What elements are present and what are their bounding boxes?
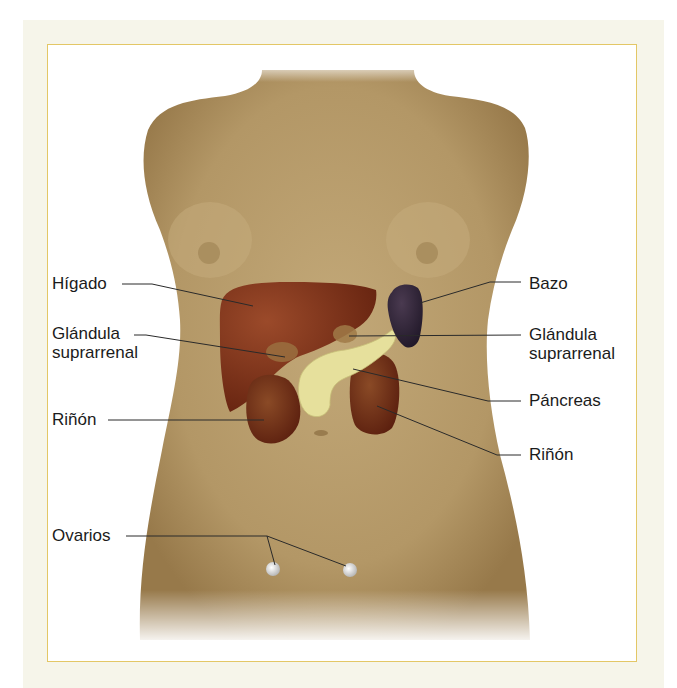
navel xyxy=(314,430,328,436)
label-glandula-suprarrenal-right: Glándula suprarrenal xyxy=(529,325,615,363)
ovary-left xyxy=(266,562,280,576)
adrenal-gland-right xyxy=(333,325,357,343)
label-rinon-left: Riñón xyxy=(52,410,96,429)
label-pancreas: Páncreas xyxy=(529,391,601,410)
label-ovarios: Ovarios xyxy=(52,526,111,545)
label-rinon-right: Riñón xyxy=(529,445,573,464)
label-glandula-suprarrenal-left: Glándula suprarrenal xyxy=(52,324,138,362)
adrenal-gland-left xyxy=(266,342,298,362)
breast-left xyxy=(168,202,252,278)
label-higado: Hígado xyxy=(52,274,107,293)
breast-right xyxy=(386,202,470,278)
ovary-right xyxy=(343,563,357,577)
label-bazo: Bazo xyxy=(529,274,568,293)
kidney-left xyxy=(246,375,300,444)
